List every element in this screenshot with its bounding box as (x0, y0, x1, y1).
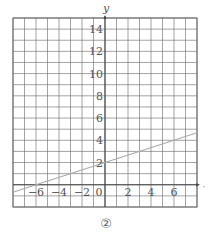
axes (13, 15, 205, 207)
x-tick-label: −4 (51, 186, 67, 199)
y-tick-label: 14 (89, 23, 103, 36)
x-tick-label: 6 (171, 186, 178, 199)
x-tick-label: 2 (125, 186, 132, 199)
chart-canvas: −6−4−202462468101214 y ② (0, 0, 208, 237)
y-tick-label: 8 (96, 90, 103, 103)
y-axis-arrow-icon (104, 15, 107, 19)
x-axis-label-dot (203, 186, 204, 187)
tick-labels: −6−4−202462468101214 (28, 23, 178, 199)
y-tick-label: 12 (89, 45, 103, 58)
x-tick-label: −2 (74, 186, 90, 199)
y-axis-label: y (102, 2, 110, 15)
y-tick-label: 6 (96, 112, 103, 125)
y-tick-label: 10 (89, 68, 103, 81)
figure-caption: ② (100, 216, 112, 231)
x-tick-label: 4 (148, 186, 155, 199)
x-axis-arrow-icon (196, 183, 200, 186)
y-tick-label: 4 (96, 134, 103, 147)
x-tick-label: 0 (96, 186, 103, 199)
y-tick-label: 2 (96, 157, 103, 170)
x-tick-label: −6 (28, 186, 44, 199)
